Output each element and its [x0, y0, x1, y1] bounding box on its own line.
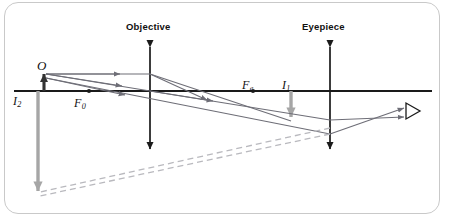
image-two-label-sub: 2: [17, 100, 21, 109]
focal-objective-label-sub: 0: [81, 102, 85, 111]
virtual-image-construction-lines: [40, 128, 330, 196]
image-two-label: I2: [13, 94, 21, 109]
object-label: O: [37, 58, 46, 74]
virtual-line-lower: [40, 134, 330, 196]
image-one-label: I1: [282, 78, 290, 93]
eyepiece-lens-label: Eyepiece: [302, 21, 345, 32]
focal-objective-label: F0: [74, 96, 86, 111]
ray-exit-lower: [330, 117, 404, 120]
objective-lens-label: Objective: [126, 21, 171, 32]
focal-eyepiece-label-sub: e: [249, 84, 253, 93]
ray-parallel-refracted-full: [150, 74, 291, 121]
ray-exit-upper: [330, 108, 404, 134]
image-one-label-sub: 1: [286, 84, 290, 93]
eye-symbol: [406, 103, 420, 119]
eye-triangle-icon: [406, 103, 420, 119]
focal-eyepiece-label: Fe: [242, 78, 253, 93]
virtual-line-upper: [40, 128, 330, 192]
rays-to-eye: [330, 108, 404, 134]
focal-point-objective-dot: [87, 89, 91, 93]
ray-diagram-canvas: [0, 0, 449, 220]
figure-root: Objective Eyepiece O I2 F0 Fe I1: [0, 0, 449, 220]
